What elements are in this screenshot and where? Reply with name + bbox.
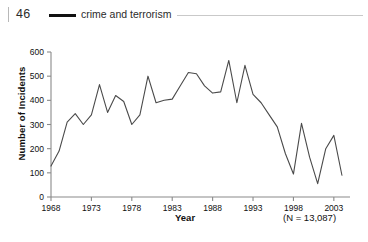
header-horizontal-rule	[177, 15, 363, 16]
x-tick-label: 1988	[203, 203, 222, 213]
y-tick-label: 600	[30, 47, 44, 57]
x-tick-label: 1973	[82, 203, 101, 213]
x-tick-label: 1993	[244, 203, 263, 213]
running-header: 46 crime and terrorism	[0, 0, 368, 30]
sample-size-annotation: (N = 13,087)	[283, 212, 336, 223]
header-dash-rule	[49, 14, 76, 17]
x-tick-label: 1968	[42, 203, 61, 213]
page-number: 46	[16, 7, 30, 22]
y-axis-label: Number of Incidents	[16, 49, 27, 179]
x-tick-label: 1978	[122, 203, 141, 213]
y-tick-label: 0	[39, 192, 44, 202]
y-axis-group: 0100200300400500600	[30, 47, 51, 202]
line-chart-figure: 0100200300400500600 19681973197819831988…	[0, 30, 368, 242]
y-tick-label: 400	[30, 95, 44, 105]
running-header-title: crime and terrorism	[81, 7, 171, 22]
chart-canvas: 0100200300400500600 19681973197819831988…	[0, 30, 368, 242]
y-tick-label: 500	[30, 71, 44, 81]
x-axis-ticks: 19681973197819831988199319982003	[42, 197, 344, 213]
y-axis-ticks: 0100200300400500600	[30, 47, 51, 202]
x-axis-group: 19681973197819831988199319982003	[42, 197, 350, 213]
y-tick-label: 200	[30, 144, 44, 154]
header-left-rule	[8, 7, 9, 22]
x-axis-label: Year	[175, 212, 195, 223]
data-series-line	[51, 60, 342, 183]
y-tick-label: 300	[30, 120, 44, 130]
y-tick-label: 100	[30, 168, 44, 178]
